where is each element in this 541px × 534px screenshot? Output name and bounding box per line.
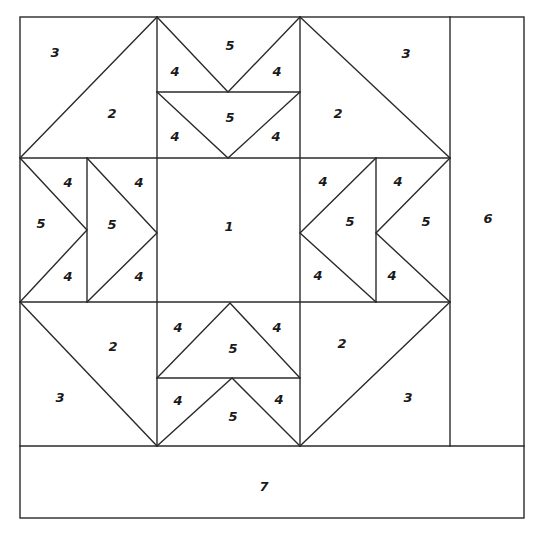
label-bottom-upper-right-4: 4 [271,320,281,335]
label-br-3: 3 [403,390,412,405]
label-right-inner-top-4: 4 [317,174,327,189]
label-left-outer-5: 5 [36,216,45,231]
label-border-right-6: 6 [483,211,492,226]
label-top-upper-left-4: 4 [169,64,179,79]
label-top-lower-5: 5 [225,110,234,125]
label-tr-3: 3 [401,46,410,61]
label-top-upper-right-4: 4 [271,64,281,79]
label-right-outer-5: 5 [421,214,430,229]
quilt-block-diagram: 3 2 4 5 4 4 5 4 2 3 4 5 4 4 5 4 1 4 5 4 … [0,0,541,534]
label-bottom-lower-5: 5 [228,409,237,424]
label-bottom-lower-right-4: 4 [273,392,283,407]
label-bottom-lower-left-4: 4 [172,393,182,408]
label-left-inner-5: 5 [107,217,116,232]
label-left-inner-top-4: 4 [133,175,143,190]
label-left-outer-bottom-4: 4 [62,269,72,284]
label-right-inner-5: 5 [345,214,354,229]
label-border-bottom-7: 7 [259,479,269,494]
label-right-inner-bottom-4: 4 [312,268,322,283]
label-right-outer-bottom-4: 4 [386,268,396,283]
label-tl-2: 2 [107,106,116,121]
label-bottom-upper-left-4: 4 [172,320,182,335]
label-right-outer-top-4: 4 [392,174,402,189]
label-center-1: 1 [224,219,233,234]
label-left-inner-bottom-4: 4 [133,269,143,284]
label-bottom-upper-5: 5 [228,341,237,356]
label-top-lower-right-4: 4 [270,129,280,144]
label-tl-3: 3 [50,45,59,60]
label-left-outer-top-4: 4 [62,175,72,190]
label-br-2: 2 [337,336,346,351]
label-tr-2: 2 [333,106,342,121]
label-bl-3: 3 [55,390,64,405]
piece-labels: 3 2 4 5 4 4 5 4 2 3 4 5 4 4 5 4 1 4 5 4 … [36,38,492,494]
label-top-upper-5: 5 [225,38,234,53]
label-bl-2: 2 [108,339,117,354]
label-top-lower-left-4: 4 [169,129,179,144]
